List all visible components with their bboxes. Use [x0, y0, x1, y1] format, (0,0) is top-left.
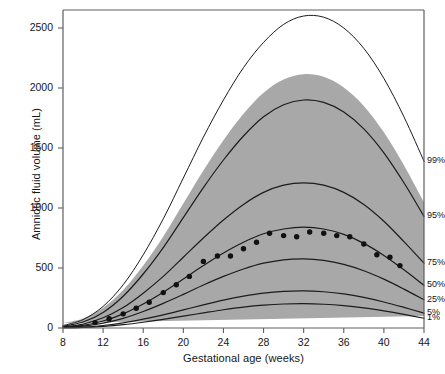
- percentile-label-25pct: 25%: [427, 294, 445, 304]
- x-tick-label: 36: [324, 336, 364, 348]
- data-point: [347, 234, 352, 239]
- y-tick-label: 500: [11, 261, 53, 273]
- x-tick-label: 44: [404, 336, 444, 348]
- data-point: [161, 290, 166, 295]
- x-tick-label: 32: [284, 336, 324, 348]
- data-point: [201, 259, 206, 264]
- x-tick-label: 24: [203, 336, 243, 348]
- data-point: [120, 311, 125, 316]
- data-point: [254, 240, 259, 245]
- data-point: [147, 300, 152, 305]
- normal-range-band: [63, 74, 424, 323]
- percentile-label-50pct: 50%: [427, 279, 445, 289]
- x-tick-label: 12: [83, 336, 123, 348]
- y-tick-label: 0: [11, 321, 53, 333]
- data-point: [387, 255, 392, 260]
- x-axis-title: Gestational age (weeks): [63, 352, 424, 364]
- data-point: [241, 246, 246, 251]
- data-point: [307, 229, 312, 234]
- x-tick-label: 28: [244, 336, 284, 348]
- x-tick-label: 8: [43, 336, 83, 348]
- percentile-label-95pct: 95%: [427, 210, 445, 220]
- data-point: [106, 316, 111, 321]
- y-tick-label: 2000: [11, 81, 53, 93]
- x-tick-label: 40: [364, 336, 404, 348]
- percentile-label-99pct: 99%: [427, 155, 445, 165]
- data-point: [228, 253, 233, 258]
- y-tick-label: 2500: [11, 21, 53, 33]
- percentile-label-1pct: 1%: [427, 312, 440, 322]
- y-axis-title: Amniotic fluid volume (mL): [30, 64, 42, 284]
- data-point: [361, 241, 366, 246]
- x-tick-label: 20: [163, 336, 203, 348]
- data-point: [294, 234, 299, 239]
- data-point: [397, 263, 402, 268]
- percentile-label-75pct: 75%: [427, 257, 445, 267]
- data-point: [321, 231, 326, 236]
- x-tick-label: 16: [123, 336, 163, 348]
- percentile-band-shading: [63, 74, 424, 323]
- data-point: [267, 231, 272, 236]
- y-tick-label: 1500: [11, 141, 53, 153]
- data-point: [134, 306, 139, 311]
- data-point: [374, 252, 379, 257]
- data-point: [215, 253, 220, 258]
- data-point: [187, 274, 192, 279]
- data-point: [174, 282, 179, 287]
- y-tick-label: 1000: [11, 201, 53, 213]
- data-point: [281, 233, 286, 238]
- data-point: [92, 320, 97, 325]
- data-point: [334, 233, 339, 238]
